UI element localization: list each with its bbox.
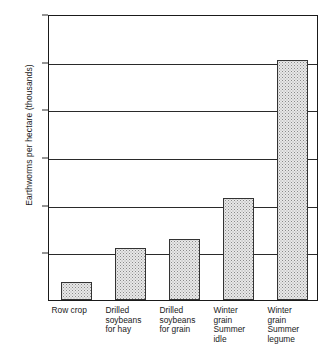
y-tick-mark bbox=[42, 158, 48, 159]
bar bbox=[61, 282, 92, 300]
y-tick-mark bbox=[42, 62, 48, 63]
x-axis-category-label: Drilled soybeans for grain bbox=[160, 306, 196, 335]
x-axis-category-label: Winter grain Summer legume bbox=[268, 306, 300, 344]
y-tick-mark bbox=[42, 253, 48, 254]
y-tick-mark bbox=[42, 15, 48, 16]
y-tick-mark bbox=[42, 110, 48, 111]
y-axis-title: Earthworms per hectare (thousands) bbox=[24, 20, 34, 250]
bar-chart: Earthworms per hectare (thousands) 13201… bbox=[0, 0, 332, 356]
x-axis-category-label: Row crop bbox=[52, 306, 87, 316]
x-axis-category-label: Drilled soybeans for hay bbox=[106, 306, 142, 335]
y-tick-mark bbox=[42, 205, 48, 206]
x-axis-category-label: Winter grain Summer idle bbox=[214, 306, 246, 344]
bar bbox=[169, 239, 200, 300]
plot-area bbox=[48, 15, 318, 301]
bar bbox=[115, 248, 146, 300]
bar bbox=[277, 60, 308, 301]
bar bbox=[223, 198, 254, 300]
